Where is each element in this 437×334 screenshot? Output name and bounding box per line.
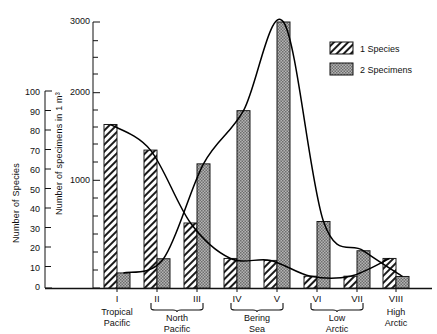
region-brackets <box>151 303 363 312</box>
bar-specimens-III <box>197 164 210 288</box>
bar-species-III <box>184 223 197 288</box>
bar-specimens-V <box>277 22 290 288</box>
legend-swatch-specimens <box>330 63 353 75</box>
bar-species-VIII <box>383 258 396 288</box>
left-axis <box>45 91 52 288</box>
bar-species-V <box>264 260 277 288</box>
inner-axis <box>93 22 100 288</box>
legend-swatch-species <box>330 42 353 54</box>
bar-species-IV <box>224 258 237 288</box>
bar-group <box>104 22 409 288</box>
bar-specimens-VIII <box>396 276 409 288</box>
chart-plot-svg <box>0 0 437 334</box>
bar-species-I <box>104 124 117 288</box>
chart-figure: 100 90 80 70 60 50 40 30 20 10 0 3000 20… <box>0 0 437 334</box>
bar-species-VI <box>304 276 317 288</box>
bar-specimens-I <box>117 273 130 288</box>
legend <box>330 42 353 75</box>
specimens-curve <box>124 19 403 276</box>
bar-species-VII <box>344 276 357 288</box>
